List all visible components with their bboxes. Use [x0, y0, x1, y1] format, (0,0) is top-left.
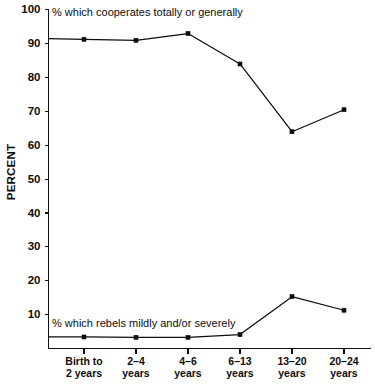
- data-point-marker: [82, 37, 86, 41]
- y-tick-label: 40: [28, 207, 41, 219]
- data-point-marker: [342, 308, 346, 312]
- chart-container: 102030405060708090100 PERCENT Birth to2 …: [0, 0, 375, 387]
- data-point-marker: [186, 335, 190, 339]
- data-point-marker: [134, 38, 138, 42]
- x-tick-label: 6–13years: [226, 355, 254, 379]
- y-tick-label: 100: [21, 3, 40, 15]
- x-tick-label: 20–24years: [329, 355, 358, 379]
- data-point-marker: [290, 130, 294, 134]
- x-tick-label: 4–6years: [174, 355, 202, 379]
- x-tick-labels: Birth to2 years2–4years4–6years6–13years…: [65, 355, 358, 379]
- line-chart: 102030405060708090100 PERCENT Birth to2 …: [0, 0, 375, 387]
- x-tick-marks: [84, 349, 344, 354]
- y-tick-label: 50: [28, 173, 41, 185]
- series-line-1: [49, 34, 345, 132]
- series-layer: [49, 32, 347, 340]
- y-tick-label: 70: [28, 105, 41, 117]
- data-point-marker: [186, 32, 190, 36]
- x-axis: Birth to2 years2–4years4–6years6–13years…: [49, 349, 372, 380]
- y-tick-label: 30: [28, 240, 41, 252]
- series-annotation-1: % which cooperates totally or generally: [52, 6, 243, 18]
- y-tick-label: 90: [28, 37, 41, 49]
- y-tick-label: 10: [28, 308, 41, 320]
- data-point-marker: [134, 335, 138, 339]
- y-axis: 102030405060708090100 PERCENT: [5, 3, 49, 349]
- data-point-marker: [238, 62, 242, 66]
- y-tick-labels: 102030405060708090100: [21, 3, 40, 320]
- y-tick-label: 60: [28, 139, 41, 151]
- y-tick-label: 20: [28, 274, 41, 286]
- x-tick-label: Birth to2 years: [65, 355, 102, 379]
- data-point-marker: [342, 108, 346, 112]
- data-point-marker: [82, 335, 86, 339]
- data-point-marker: [238, 333, 242, 337]
- y-tick-marks: [45, 10, 49, 315]
- y-axis-title: PERCENT: [5, 144, 17, 200]
- series-annotation-2: % which rebels mildly and/or severely: [52, 317, 236, 329]
- annotation-layer: % which cooperates totally or generally%…: [52, 6, 243, 329]
- data-point-marker: [290, 295, 294, 299]
- x-tick-label: 2–4years: [122, 355, 150, 379]
- x-tick-label: 13–20years: [277, 355, 306, 379]
- y-tick-label: 80: [28, 71, 41, 83]
